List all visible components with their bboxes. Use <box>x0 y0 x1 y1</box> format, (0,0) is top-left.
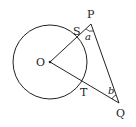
segment-op <box>50 24 91 62</box>
label-p: P <box>87 8 95 21</box>
label-o: O <box>36 56 45 69</box>
label-angle-b: b <box>108 85 114 96</box>
label-s: S <box>73 25 81 38</box>
label-angle-a: a <box>85 31 91 42</box>
label-t: T <box>80 86 88 99</box>
label-q: Q <box>116 107 125 120</box>
segment-pq <box>91 24 119 103</box>
geometry-diagram: O P Q S T a b <box>0 0 136 127</box>
center-point-o <box>49 61 52 64</box>
